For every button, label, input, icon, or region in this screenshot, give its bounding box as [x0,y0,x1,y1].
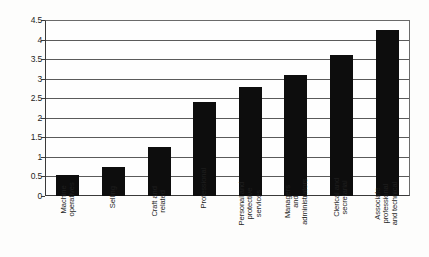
x-axis: MachineoperativesSellingCraft andrelated… [45,198,410,257]
y-axis-tick-label: 4.5 [16,16,42,25]
x-axis-tick-label-text: Clerical andsecretarial [333,178,350,217]
x-axis-label-line: Selling [109,186,117,208]
x-axis-tick-label-text: Associateprofessionaland technical [375,182,400,225]
x-axis-label-line: administrators [300,179,308,225]
y-axis-tick-label: 4 [16,35,42,44]
bar [239,87,262,197]
y-axis-tick-mark [41,176,45,177]
y-axis-tick-mark [41,98,45,99]
x-axis-tick-label-text: Selling [109,186,117,208]
y-axis-tick-mark [41,79,45,80]
y-axis-tick-mark [41,157,45,158]
x-axis-tick-label-text: Personal andprotectiveservices [238,182,263,226]
x-axis-label-line: related [159,186,167,216]
y-axis-tick-label: 1.5 [16,133,42,142]
x-axis-label-line: operatives [68,183,76,217]
x-axis-label-line: and technical [391,182,399,225]
y-axis-tick-label: 2 [16,113,42,122]
y-axis-tick-mark [41,20,45,21]
y-axis-tick-mark [41,196,45,197]
bar [376,30,399,196]
x-axis-tick-label: Associateprofessionaland technical [357,200,417,256]
y-axis-tick-mark [41,137,45,138]
y-axis-tick-mark [41,118,45,119]
y-axis-tick-label: 2.5 [16,94,42,103]
bar-chart: 00.511.522.533.544.5 MachineoperativesSe… [0,0,429,257]
bars-layer [45,20,410,196]
y-axis-tick-label: 0.5 [16,172,42,181]
y-axis-tick-mark [41,40,45,41]
y-axis-tick-label: 1 [16,152,42,161]
bar [330,55,353,196]
x-axis-label-line: services [255,182,263,226]
x-axis-tick-label-text: Machineoperatives [59,183,76,217]
y-axis-tick-mark [41,59,45,60]
x-axis-label-line: secretarial [342,178,350,217]
x-axis-tick-label-text: Craft andrelated [151,186,168,216]
x-axis-tick-label-text: Managersandadministrators [283,179,308,225]
y-axis-tick-label: 3.5 [16,55,42,64]
x-axis-label-line: Professional [200,168,208,209]
y-axis-tick-label: 3 [16,74,42,83]
x-axis-tick-label-text: Professional [200,168,208,209]
